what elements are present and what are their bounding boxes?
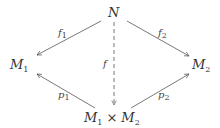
arrow-f1 (37, 21, 101, 55)
label-f2: f2 (157, 27, 167, 40)
label-f: f (102, 58, 109, 69)
node-n: N (107, 5, 120, 20)
arrow-p1 (37, 74, 95, 108)
commutative-diagram: N M1 M2 M1×M2 f1 f2 f p1 p2 (0, 0, 220, 128)
node-m2: M2 (191, 57, 210, 74)
label-p2: p2 (158, 89, 170, 102)
label-p1: p1 (58, 89, 70, 102)
node-product: M1×M2 (83, 110, 140, 127)
label-f1: f1 (57, 27, 67, 40)
node-m1: M1 (9, 57, 28, 74)
